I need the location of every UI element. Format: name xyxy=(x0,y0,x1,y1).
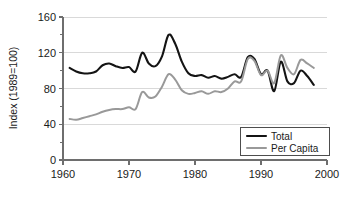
chart-svg: 04080120160 19601970198019902000 Index (… xyxy=(0,0,343,197)
y-tick-label-40: 40 xyxy=(44,118,56,130)
x-tick-label-1960: 1960 xyxy=(51,168,75,180)
legend-label-per-capita: Per Capita xyxy=(271,143,319,154)
x-tick-label-2000: 2000 xyxy=(315,168,339,180)
y-tick-label-80: 80 xyxy=(44,83,56,95)
chart-legend[interactable]: Total Per Capita xyxy=(241,128,330,156)
y-tick-label-0: 0 xyxy=(50,154,56,166)
x-tick-label-1980: 1980 xyxy=(183,168,207,180)
y-axis-title: Index (1989=100) xyxy=(7,47,19,130)
legend-label-total: Total xyxy=(271,131,292,142)
x-tick-label-1970: 1970 xyxy=(117,168,141,180)
y-tick-label-160: 160 xyxy=(38,11,56,23)
y-tick-label-120: 120 xyxy=(38,47,56,59)
line-chart-figure: 04080120160 19601970198019902000 Index (… xyxy=(0,0,343,197)
x-tick-label-1990: 1990 xyxy=(249,168,273,180)
